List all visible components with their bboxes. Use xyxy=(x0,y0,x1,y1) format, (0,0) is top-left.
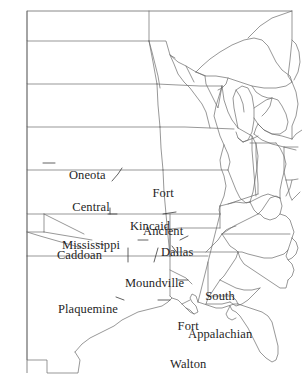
label-text-fort-walton-1: Fort xyxy=(170,320,206,333)
archaeological-culture-map: Oneota Central Mississippi Fort Ancient … xyxy=(0,0,302,387)
map-label-plaquemine: Plaquemine xyxy=(45,290,118,328)
great-lakes xyxy=(196,38,302,150)
state-boundaries-northeast xyxy=(248,11,300,200)
label-text-dallas: Dallas xyxy=(161,245,194,259)
label-text-central: Central xyxy=(62,201,120,214)
map-label-fort-walton: Fort Walton xyxy=(170,294,206,387)
label-text-plaquemine: Plaquemine xyxy=(58,302,118,316)
label-text-caddoan: Caddoan xyxy=(57,248,102,262)
label-text-fort: Fort xyxy=(143,187,183,200)
map-label-caddoan: Caddoan xyxy=(44,236,102,274)
label-text-moundville: Moundville xyxy=(125,276,184,290)
label-text-kincaid: Kincaid xyxy=(130,219,170,233)
label-text-fort-walton-2: Walton xyxy=(170,358,206,371)
